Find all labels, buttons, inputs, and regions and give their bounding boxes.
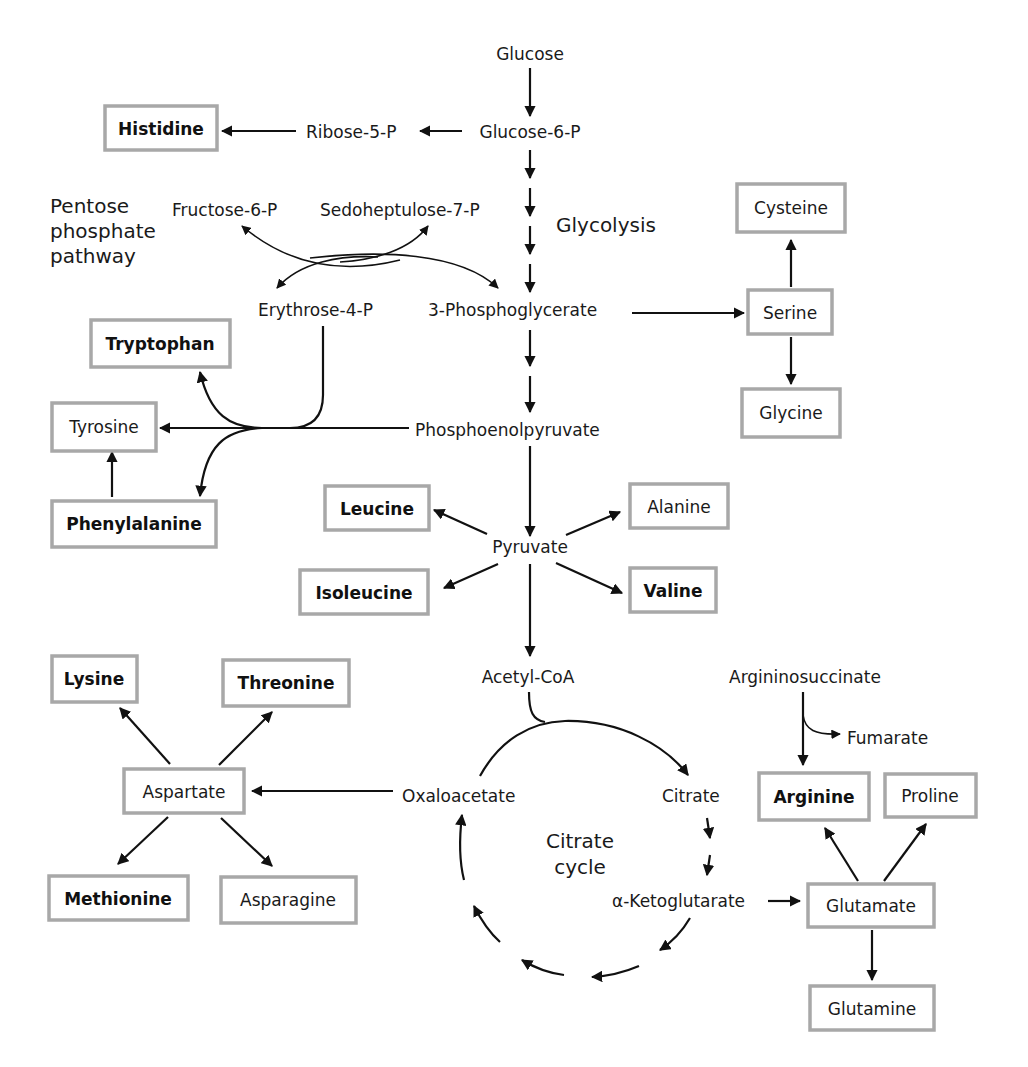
amino-acid-box-glutamate: Glutamate bbox=[808, 884, 934, 927]
amino-acid-label: Asparagine bbox=[240, 890, 336, 910]
amino-acid-box-proline: Proline bbox=[885, 774, 976, 817]
amino-acid-label: Arginine bbox=[773, 787, 854, 807]
argininosuccinate-arrows bbox=[803, 692, 840, 765]
metabolite-fructose-6-p: Fructose-6-P bbox=[172, 200, 277, 220]
metabolite-alpha-ketoglutarate: α-Ketoglutarate bbox=[612, 891, 745, 911]
metabolite-citrate: Citrate bbox=[662, 786, 720, 806]
amino-acid-label: Tyrosine bbox=[68, 417, 139, 437]
metabolite-fumarate: Fumarate bbox=[847, 728, 928, 748]
ppp-exchange-arrows bbox=[242, 226, 498, 288]
amino-acid-label: Aspartate bbox=[143, 782, 226, 802]
amino-acid-label: Phenylalanine bbox=[66, 514, 201, 534]
amino-acid-box-serine: Serine bbox=[748, 290, 832, 334]
amino-acid-box-lysine: Lysine bbox=[52, 656, 137, 702]
amino-acid-box-threonine: Threonine bbox=[223, 660, 349, 706]
amino-acid-box-alanine: Alanine bbox=[630, 484, 728, 528]
section-label-ppp-3: pathway bbox=[50, 244, 136, 268]
amino-acid-label: Methionine bbox=[64, 889, 172, 909]
amino-acid-label: Alanine bbox=[647, 497, 711, 517]
pathway-diagram: Glucose Glucose-6-P Glycolysis Ribose-5-… bbox=[0, 0, 1028, 1067]
amino-acid-box-methionine: Methionine bbox=[49, 876, 188, 920]
amino-acid-label: Proline bbox=[901, 786, 959, 806]
metabolite-3-phosphoglycerate: 3-Phosphoglycerate bbox=[428, 300, 597, 320]
metabolite-oxaloacetate: Oxaloacetate bbox=[402, 786, 515, 806]
metabolite-erythrose-4-p: Erythrose-4-P bbox=[258, 300, 373, 320]
amino-acid-box-tryptophan: Tryptophan bbox=[91, 320, 230, 367]
amino-acid-label: Valine bbox=[644, 581, 703, 601]
amino-acid-label: Glutamine bbox=[828, 999, 916, 1019]
amino-acid-box-valine: Valine bbox=[630, 568, 716, 612]
amino-acid-box-leucine: Leucine bbox=[325, 486, 429, 530]
amino-acid-box-cysteine: Cysteine bbox=[737, 184, 845, 232]
metabolite-glucose: Glucose bbox=[496, 44, 564, 64]
amino-acid-label: Histidine bbox=[118, 119, 204, 139]
amino-acid-box-asparagine: Asparagine bbox=[221, 877, 356, 923]
section-label-glycolysis: Glycolysis bbox=[556, 213, 656, 237]
amino-acid-box-tyrosine: Tyrosine bbox=[52, 403, 156, 451]
metabolite-ribose-5-p: Ribose-5-P bbox=[306, 122, 396, 142]
amino-acid-label: Serine bbox=[763, 303, 817, 323]
section-label-ppp-2: phosphate bbox=[50, 219, 156, 243]
amino-acid-box-isoleucine: Isoleucine bbox=[300, 570, 428, 614]
amino-acid-label: Glycine bbox=[759, 403, 822, 423]
metabolite-argininosuccinate: Argininosuccinate bbox=[729, 667, 881, 687]
section-label-ppp-1: Pentose bbox=[50, 194, 129, 218]
metabolite-acetyl-coa: Acetyl-CoA bbox=[482, 667, 575, 687]
metabolite-pyruvate: Pyruvate bbox=[492, 537, 568, 557]
amino-acid-label: Threonine bbox=[238, 673, 335, 693]
amino-acid-label: Isoleucine bbox=[315, 583, 412, 603]
amino-acid-label: Tryptophan bbox=[105, 334, 214, 354]
amino-acid-box-histidine: Histidine bbox=[105, 106, 217, 150]
section-label-cycle-2: cycle bbox=[554, 855, 606, 879]
amino-acid-box-phenylalanine: Phenylalanine bbox=[52, 501, 216, 547]
amino-acid-box-aspartate: Aspartate bbox=[124, 769, 244, 813]
metabolite-phosphoenolpyruvate: Phosphoenolpyruvate bbox=[415, 420, 600, 440]
amino-acid-box-arginine: Arginine bbox=[759, 773, 869, 820]
amino-acid-label: Glutamate bbox=[826, 896, 916, 916]
amino-acid-box-glycine: Glycine bbox=[742, 389, 840, 437]
amino-acid-label: Cysteine bbox=[754, 198, 828, 218]
amino-acid-box-glutamine: Glutamine bbox=[810, 986, 934, 1030]
section-label-cycle-1: Citrate bbox=[546, 829, 614, 853]
amino-acid-label: Leucine bbox=[340, 499, 414, 519]
amino-acid-label: Lysine bbox=[64, 669, 124, 689]
metabolite-glucose-6-p: Glucose-6-P bbox=[479, 122, 580, 142]
metabolite-sedoheptulose-7-p: Sedoheptulose-7-P bbox=[320, 200, 480, 220]
